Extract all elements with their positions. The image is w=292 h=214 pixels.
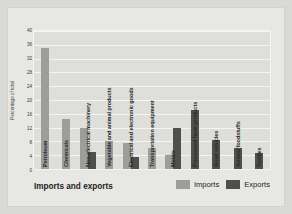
y-axis-tick-label: 16 [16, 112, 32, 117]
bar-imports[interactable] [41, 48, 49, 169]
bar-exports[interactable] [88, 152, 96, 169]
y-axis-tick-label: 20 [16, 98, 32, 103]
y-axis-title-text: Percentage of total [10, 81, 15, 120]
bar-imports[interactable] [62, 119, 70, 169]
bar-group: Metals [163, 31, 184, 169]
bar-imports[interactable] [123, 143, 131, 169]
legend-swatch-imports [176, 180, 190, 189]
y-axis-tick-label: 36 [16, 42, 32, 47]
legend-label-imports: Imports [194, 180, 219, 189]
y-axis-tick-label: 8 [16, 140, 32, 145]
bar-group: Textiles [249, 31, 270, 169]
bar-exports[interactable] [212, 140, 220, 169]
bar-exports[interactable] [234, 148, 242, 169]
y-axis-tick-label: 28 [16, 70, 32, 75]
chart-legend: Imports Exports [176, 180, 270, 189]
legend-label-exports: Exports [244, 180, 270, 189]
bar-imports[interactable] [165, 155, 173, 169]
x-axis-title: Imports and exports [34, 182, 113, 191]
bar-group-container: PetroleumChemicalsNon-electrical machine… [34, 31, 270, 169]
bar-group: Non-electrical machinery [77, 31, 98, 169]
bar-group: Chemicals [55, 31, 76, 169]
y-axis-tick-label: 24 [16, 84, 32, 89]
chart-card: Percentage of total 0481216202428323640 … [8, 8, 284, 206]
legend-swatch-exports [226, 180, 240, 189]
y-axis-tick-label: 0 [16, 168, 32, 173]
bar-group: Animal foodstuffs [227, 31, 248, 169]
bar-group: Processed farm products [184, 31, 205, 169]
bar-group: Electrical and electronic goods [120, 31, 141, 169]
bar-exports[interactable] [131, 157, 139, 169]
bar-imports[interactable] [80, 128, 88, 169]
bar-group: Petroleum [34, 31, 55, 169]
bar-group: Road vehicles [206, 31, 227, 169]
bar-imports[interactable] [148, 148, 156, 169]
bar-exports[interactable] [173, 128, 181, 169]
legend-item-imports: Imports [176, 180, 219, 189]
bar-exports[interactable] [255, 153, 263, 169]
plot-area: PetroleumChemicalsNon-electrical machine… [33, 30, 271, 170]
y-axis-tick-label: 4 [16, 154, 32, 159]
legend-item-exports: Exports [226, 180, 270, 189]
y-axis-tick-label: 40 [16, 28, 32, 33]
bar-imports[interactable] [105, 141, 113, 169]
y-axis-ticks: 0481216202428323640 [16, 30, 32, 170]
bar-group: Vegetable and animal products [98, 31, 119, 169]
bar-group: Transportation equipment [141, 31, 162, 169]
bar-exports[interactable] [191, 110, 199, 169]
y-axis-tick-label: 32 [16, 56, 32, 61]
y-axis-tick-label: 12 [16, 126, 32, 131]
